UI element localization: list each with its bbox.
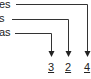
number-3: 3 bbox=[48, 62, 54, 73]
leader-lines bbox=[0, 0, 91, 79]
arrow-down-icon bbox=[66, 51, 72, 57]
leader-line-2 bbox=[12, 20, 69, 53]
arrow-down-icon bbox=[49, 51, 55, 57]
arrow-down-icon bbox=[85, 51, 91, 57]
number-2: 2 bbox=[65, 62, 71, 73]
number-4: 4 bbox=[84, 62, 90, 73]
leader-line-3 bbox=[15, 34, 52, 53]
